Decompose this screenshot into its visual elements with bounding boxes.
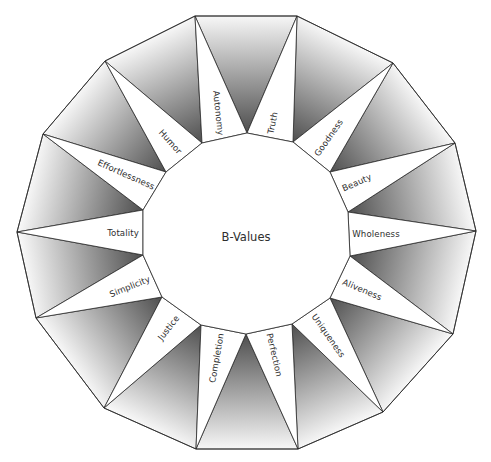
b-values-diagram: TruthGoodnessBeautyWholenessAlivenessUni… [0, 0, 491, 462]
center-title: B-Values [222, 230, 271, 244]
value-label-totality: Totality [106, 228, 139, 238]
value-label-wholeness: Wholeness [352, 229, 400, 239]
